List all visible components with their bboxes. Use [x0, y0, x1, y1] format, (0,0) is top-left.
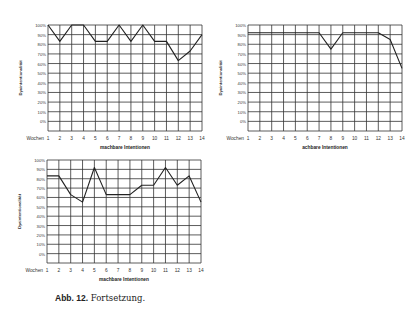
- x-tick-label: 2: [59, 136, 62, 141]
- y-tick-label: 60%: [38, 62, 47, 67]
- y-tick-label: 10%: [238, 110, 247, 115]
- x-tick-label: 13: [186, 268, 192, 273]
- y-tick-label: 90%: [238, 33, 247, 38]
- y-tick-label: 0%: [39, 252, 45, 257]
- plot-area: 100%90%80%70%60%50%40%30%20%10%0%1234567…: [0, 0, 210, 150]
- x-tick-label: 11: [164, 136, 169, 141]
- x-tick-label: 10: [152, 136, 158, 141]
- data-line: [47, 167, 201, 202]
- x-tick-label: 4: [82, 136, 85, 141]
- x-tick-label: 3: [270, 136, 273, 141]
- x-tick-label: 9: [341, 136, 344, 141]
- y-tick-label: 10%: [37, 242, 46, 247]
- plot-area: 100%90%80%70%60%50%40%30%20%10%0%1234567…: [210, 0, 419, 150]
- y-tick-label: 60%: [238, 62, 247, 67]
- x-tick-label: 10: [352, 136, 358, 141]
- y-tick-label: 100%: [34, 158, 45, 163]
- y-tick-label: 50%: [38, 71, 47, 76]
- x-tick-label: 11: [364, 136, 369, 141]
- y-tick-label: 90%: [38, 33, 47, 38]
- y-tick-label: 100%: [235, 23, 246, 28]
- plot-area: 100%90%80%70%60%50%40%30%20%10%0%1234567…: [0, 150, 210, 290]
- chart-achbare-intentionen: 100%90%80%70%60%50%40%30%20%10%0%1234567…: [210, 0, 419, 150]
- x-tick-label: 3: [70, 136, 73, 141]
- x-tick-label: 8: [130, 136, 133, 141]
- x-tick-label: 2: [259, 136, 262, 141]
- x-tick-label: 1: [247, 136, 250, 141]
- y-axis-title: Dyaintentionalität: [18, 60, 23, 96]
- x-tick-label: 6: [106, 136, 109, 141]
- y-axis-title: Dyaintentionalität: [218, 60, 223, 96]
- x-tick-label: 13: [387, 136, 393, 141]
- y-tick-label: 60%: [37, 195, 46, 200]
- data-line: [248, 33, 402, 69]
- y-tick-label: 30%: [238, 90, 247, 95]
- x-axis-prefix: Wochen: [25, 268, 43, 273]
- data-line: [48, 25, 202, 61]
- y-tick-label: 30%: [37, 224, 46, 229]
- y-tick-label: 40%: [238, 81, 247, 86]
- y-tick-label: 30%: [38, 90, 47, 95]
- x-axis-title: achbare Intentionen: [302, 145, 348, 150]
- x-tick-label: 4: [81, 268, 84, 273]
- x-tick-label: 6: [306, 136, 309, 141]
- x-tick-label: 5: [93, 268, 96, 273]
- y-tick-label: 70%: [37, 186, 46, 191]
- y-tick-label: 10%: [38, 110, 47, 115]
- x-tick-label: 12: [175, 268, 181, 273]
- x-tick-label: 14: [198, 268, 204, 273]
- x-tick-label: 1: [46, 268, 49, 273]
- x-tick-label: 8: [330, 136, 333, 141]
- figure-label: Abb. 12.: [55, 293, 88, 303]
- y-tick-label: 20%: [37, 233, 46, 238]
- x-tick-label: 7: [117, 268, 120, 273]
- y-tick-label: 50%: [37, 205, 46, 210]
- x-tick-label: 7: [318, 136, 321, 141]
- y-tick-label: 90%: [37, 167, 46, 172]
- x-tick-label: 10: [151, 268, 157, 273]
- x-axis-title: machbare Intentionen: [99, 277, 149, 282]
- x-tick-label: 1: [47, 136, 50, 141]
- figure-caption: Abb. 12. Fortsetzung.: [55, 293, 145, 303]
- y-tick-label: 70%: [238, 52, 247, 57]
- y-tick-label: 40%: [37, 214, 46, 219]
- y-tick-label: 80%: [38, 42, 47, 47]
- x-tick-label: 3: [69, 268, 72, 273]
- x-tick-label: 12: [176, 136, 182, 141]
- y-tick-label: 80%: [238, 42, 247, 47]
- x-tick-label: 7: [118, 136, 121, 141]
- chart-machbare-intentionen-2: 100%90%80%70%60%50%40%30%20%10%0%1234567…: [0, 150, 210, 290]
- x-tick-label: 12: [376, 136, 382, 141]
- x-axis-prefix: Wochen: [226, 136, 244, 141]
- x-tick-label: 5: [294, 136, 297, 141]
- y-tick-label: 20%: [238, 100, 247, 105]
- y-tick-label: 0%: [240, 119, 246, 124]
- y-tick-label: 100%: [35, 23, 46, 28]
- y-tick-label: 70%: [38, 52, 47, 57]
- x-tick-label: 5: [94, 136, 97, 141]
- x-tick-label: 9: [140, 268, 143, 273]
- y-tick-label: 50%: [238, 71, 247, 76]
- chart-machbare-intentionen-1: 100%90%80%70%60%50%40%30%20%10%0%1234567…: [0, 0, 210, 150]
- x-tick-label: 14: [199, 136, 205, 141]
- x-tick-label: 13: [187, 136, 193, 141]
- y-tick-label: 0%: [40, 119, 46, 124]
- x-tick-label: 11: [163, 268, 168, 273]
- x-tick-label: 2: [58, 268, 61, 273]
- x-tick-label: 14: [399, 136, 405, 141]
- y-tick-label: 40%: [38, 81, 47, 86]
- x-tick-label: 4: [282, 136, 285, 141]
- x-tick-label: 9: [141, 136, 144, 141]
- y-axis-title: Dyaintentionalität: [17, 193, 22, 229]
- x-axis-prefix: Wochen: [26, 136, 44, 141]
- y-tick-label: 80%: [37, 177, 46, 182]
- x-tick-label: 8: [129, 268, 132, 273]
- y-tick-label: 20%: [38, 100, 47, 105]
- figure-caption-text: Fortsetzung.: [91, 293, 145, 303]
- x-tick-label: 6: [105, 268, 108, 273]
